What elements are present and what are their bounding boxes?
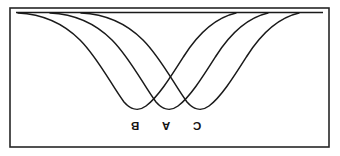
figure-root: B A C: [0, 0, 340, 156]
curve-label-group: B A C: [131, 120, 201, 132]
curve-label-b: B: [131, 120, 139, 132]
chart-canvas: B A C: [0, 0, 340, 156]
curve-label-a: A: [162, 120, 170, 132]
curve-a: [50, 13, 268, 109]
curve-group: [18, 13, 299, 109]
curve-label-c: C: [193, 120, 201, 132]
